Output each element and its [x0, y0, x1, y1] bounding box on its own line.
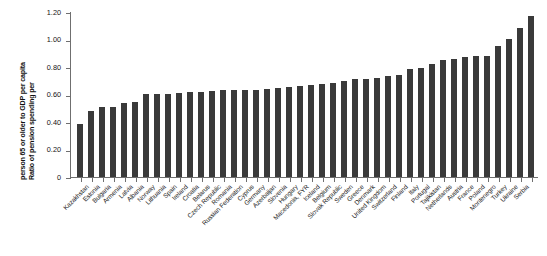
bar[interactable] — [495, 46, 501, 177]
bar[interactable] — [176, 93, 182, 177]
y-axis-tick-label: 0.60 — [47, 90, 61, 99]
bar[interactable] — [528, 16, 534, 177]
bar-slot — [319, 12, 325, 177]
x-axis-tick — [367, 178, 368, 182]
bar-slot — [77, 12, 83, 177]
y-axis-tick-label: 1.00 — [47, 35, 61, 44]
bar[interactable] — [451, 59, 457, 177]
x-axis-tick — [411, 178, 412, 182]
bar[interactable] — [264, 89, 270, 177]
x-axis-tick — [312, 178, 313, 182]
y-axis-title-line-2: person 65 or older to GDP per capita — [19, 4, 27, 180]
bar-slot — [330, 12, 336, 177]
bar-slot — [275, 12, 281, 177]
bar-slot — [396, 12, 402, 177]
x-axis-tick — [389, 178, 390, 182]
bar-slot — [374, 12, 380, 177]
bar-slot — [99, 12, 105, 177]
bar-slot — [484, 12, 490, 177]
x-axis-tick — [81, 178, 82, 182]
bar[interactable] — [198, 92, 204, 177]
bar-slot — [297, 12, 303, 177]
bar-slot — [220, 12, 226, 177]
bar-slot — [231, 12, 237, 177]
bar[interactable] — [341, 81, 347, 177]
y-axis-tick-label: 0.20 — [47, 145, 61, 154]
bar[interactable] — [319, 84, 325, 177]
bar[interactable] — [418, 68, 424, 177]
bar[interactable] — [220, 90, 226, 177]
bar-slot — [110, 12, 116, 177]
bar[interactable] — [209, 91, 215, 177]
bar[interactable] — [330, 83, 336, 177]
bar[interactable] — [462, 57, 468, 177]
x-axis-tick — [147, 178, 148, 182]
bar[interactable] — [286, 87, 292, 177]
bar[interactable] — [297, 86, 303, 177]
y-axis-tick-label: 1.20 — [47, 8, 61, 17]
bar[interactable] — [429, 64, 435, 177]
bar[interactable] — [440, 60, 446, 177]
x-axis-tick — [202, 178, 203, 182]
x-axis-tick — [499, 178, 500, 182]
x-axis-tick — [444, 178, 445, 182]
bar[interactable] — [253, 90, 259, 177]
x-axis-tick — [400, 178, 401, 182]
bar[interactable] — [99, 107, 105, 177]
x-axis-tick — [213, 178, 214, 182]
bar[interactable] — [396, 75, 402, 177]
bar[interactable] — [154, 94, 160, 177]
x-axis-tick — [290, 178, 291, 182]
x-axis-labels: KazakhstanEstoniaBulgariaArmeniaLatviaAl… — [71, 183, 547, 253]
bar[interactable] — [363, 79, 369, 177]
bar-slot — [407, 12, 413, 177]
bar[interactable] — [374, 78, 380, 177]
bar[interactable] — [506, 39, 512, 177]
bar[interactable] — [77, 124, 83, 177]
bar[interactable] — [242, 90, 248, 177]
bar[interactable] — [385, 76, 391, 177]
bar-slot — [440, 12, 446, 177]
bar-slot — [506, 12, 512, 177]
x-axis-tick — [455, 178, 456, 182]
x-axis-tick — [422, 178, 423, 182]
x-axis-tick — [169, 178, 170, 182]
bar[interactable] — [121, 103, 127, 177]
bar-slot — [451, 12, 457, 177]
bar[interactable] — [308, 85, 314, 177]
bar[interactable] — [165, 94, 171, 177]
y-axis-tick-label: 0.80 — [47, 63, 61, 72]
bar-slot — [517, 12, 523, 177]
x-axis-tick — [433, 178, 434, 182]
bar[interactable] — [143, 94, 149, 177]
bar[interactable] — [88, 111, 94, 177]
bar-slot — [143, 12, 149, 177]
bar[interactable] — [110, 107, 116, 177]
pension-spending-bar-chart: Ratio of pension spending per person 65 … — [0, 0, 547, 256]
x-axis-tick — [323, 178, 324, 182]
bar[interactable] — [473, 56, 479, 177]
bar-series — [71, 12, 538, 177]
bar[interactable] — [275, 88, 281, 177]
bar[interactable] — [352, 79, 358, 177]
bar-slot — [121, 12, 127, 177]
y-axis-title: Ratio of pension spending per person 65 … — [18, 10, 44, 180]
bar[interactable] — [517, 28, 523, 177]
x-axis-tick — [136, 178, 137, 182]
plot-area: 00.200.400.600.801.001.20 — [70, 12, 538, 178]
bar-slot — [429, 12, 435, 177]
x-axis-tick — [114, 178, 115, 182]
bar[interactable] — [132, 102, 138, 177]
x-axis-tick — [301, 178, 302, 182]
bar-slot — [88, 12, 94, 177]
x-axis-tick — [477, 178, 478, 182]
x-axis-tick — [235, 178, 236, 182]
bar[interactable] — [484, 56, 490, 177]
x-axis-tick — [103, 178, 104, 182]
bar-slot — [352, 12, 358, 177]
x-axis-tick — [180, 178, 181, 182]
bar[interactable] — [407, 69, 413, 177]
x-axis-tick — [334, 178, 335, 182]
bar[interactable] — [231, 90, 237, 177]
bar[interactable] — [187, 92, 193, 177]
